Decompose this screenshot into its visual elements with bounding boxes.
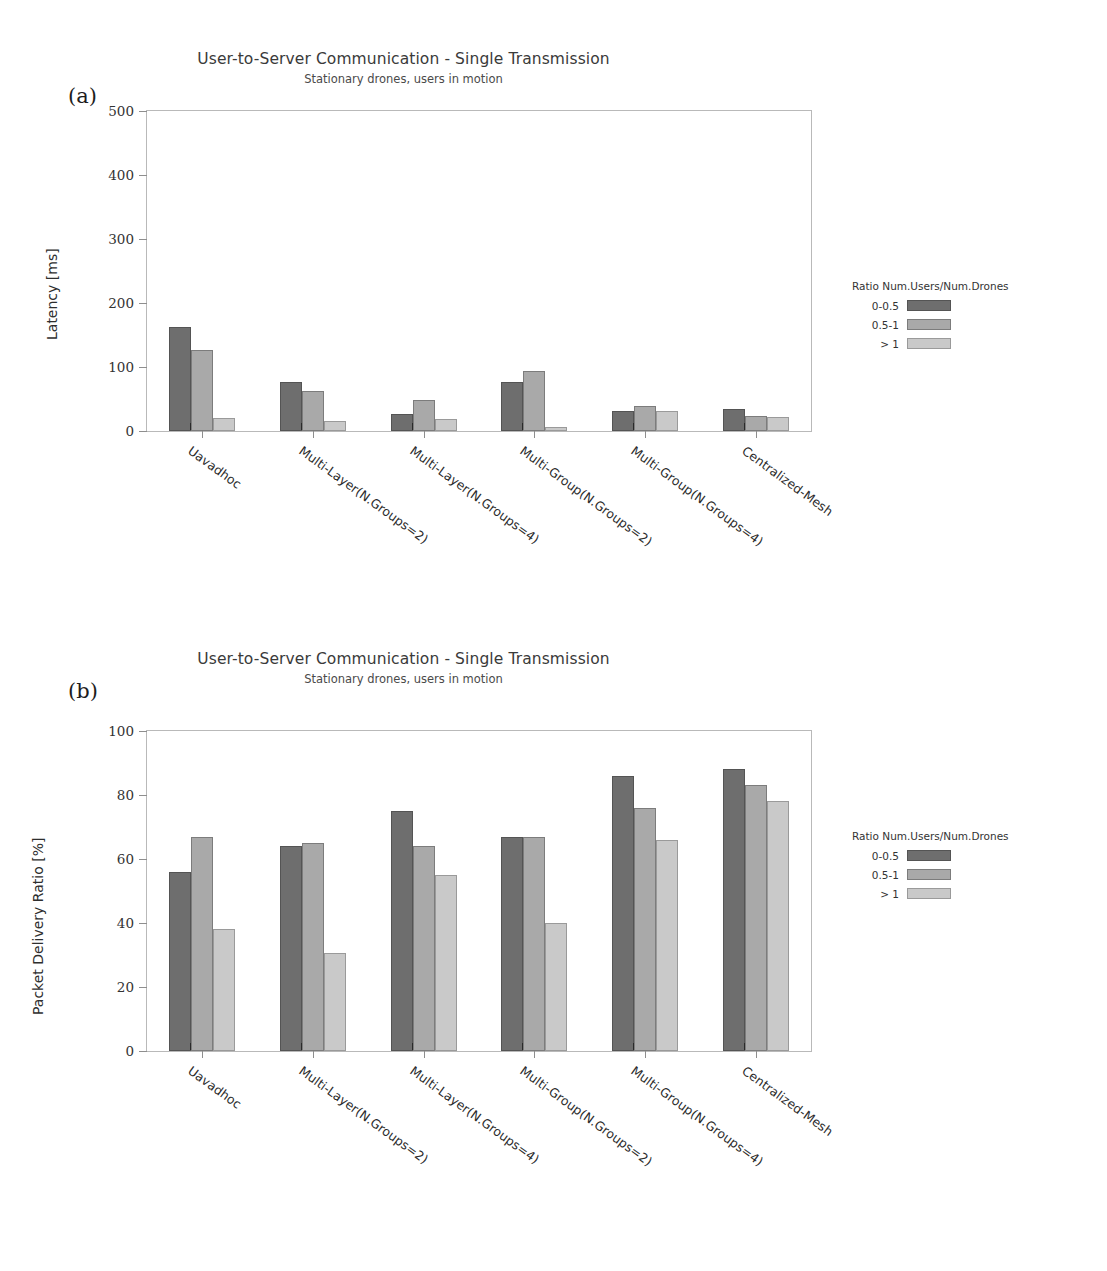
panel-label-a: (a) — [68, 84, 97, 108]
bar[interactable] — [523, 371, 545, 431]
legend-label: 0-0.5 — [852, 300, 899, 312]
bar[interactable] — [391, 414, 413, 431]
figure-a-titles: User-to-Server Communication - Single Tr… — [0, 50, 1107, 86]
legend-title: Ratio Num.Users/Num.Drones — [852, 830, 1009, 842]
bar[interactable] — [545, 923, 567, 1051]
bar-group — [169, 111, 235, 431]
bar[interactable] — [302, 843, 324, 1051]
bar[interactable] — [324, 421, 346, 431]
bar[interactable] — [191, 350, 213, 431]
bar[interactable] — [213, 418, 235, 431]
x-axis-tick — [424, 431, 425, 438]
bar[interactable] — [280, 382, 302, 431]
y-axis-tick-label: 0 — [125, 423, 134, 439]
x-axis-label: Uavadhoc — [186, 443, 245, 492]
bar[interactable] — [612, 411, 634, 431]
y-axis-tick-label: 0 — [125, 1043, 134, 1059]
bar[interactable] — [280, 846, 302, 1051]
bar[interactable] — [435, 875, 457, 1051]
bar[interactable] — [213, 929, 235, 1051]
legend-item-1[interactable]: 0.5-1 — [852, 317, 1009, 332]
bar-group-container — [147, 731, 811, 1051]
bar[interactable] — [501, 837, 523, 1051]
bar-group — [280, 731, 346, 1051]
bar-group — [612, 111, 678, 431]
legend-item-2[interactable]: > 1 — [852, 886, 1009, 901]
x-axis-tick — [756, 431, 757, 438]
y-axis-tick-label: 40 — [117, 915, 134, 931]
y-axis-tick — [139, 859, 147, 860]
y-axis-tick — [139, 303, 147, 304]
y-axis-tick — [139, 111, 147, 112]
x-axis-tick — [534, 1051, 535, 1058]
legend-label: 0.5-1 — [852, 319, 899, 331]
bar[interactable] — [169, 327, 191, 431]
bar[interactable] — [391, 811, 413, 1051]
y-axis-tick — [139, 239, 147, 240]
bar[interactable] — [723, 409, 745, 431]
bar[interactable] — [634, 808, 656, 1051]
y-axis-tick-label: 200 — [108, 295, 134, 311]
legend-swatch-icon — [907, 300, 951, 311]
bar[interactable] — [324, 953, 346, 1051]
legend: Ratio Num.Users/Num.Drones 0-0.5 0.5-1 >… — [852, 830, 1009, 905]
y-axis-tick-label: 20 — [117, 979, 134, 995]
bar-group — [391, 111, 457, 431]
bar[interactable] — [656, 411, 678, 431]
bar[interactable] — [767, 801, 789, 1051]
bar[interactable] — [413, 846, 435, 1051]
y-axis-tick-label: 80 — [117, 787, 134, 803]
legend-label: 0.5-1 — [852, 869, 899, 881]
bar-group — [169, 731, 235, 1051]
legend-item-2[interactable]: > 1 — [852, 336, 1009, 351]
bar[interactable] — [745, 785, 767, 1051]
bar-group-container — [147, 111, 811, 431]
x-axis-tick — [202, 1051, 203, 1058]
legend-item-0[interactable]: 0-0.5 — [852, 848, 1009, 863]
plot-area-wrapper-a: UavadhocMulti-Layer(N.Groups=2)Multi-Lay… — [146, 110, 812, 432]
x-axis-label: Centralized-Mesh — [739, 1063, 836, 1139]
bar-group — [612, 731, 678, 1051]
legend-swatch-icon — [907, 338, 951, 349]
y-axis-tick-label: 500 — [108, 103, 134, 119]
bar[interactable] — [169, 872, 191, 1051]
bar-group — [723, 731, 789, 1051]
figure-b-titles: User-to-Server Communication - Single Tr… — [0, 650, 1107, 686]
legend: Ratio Num.Users/Num.Drones 0-0.5 0.5-1 >… — [852, 280, 1009, 355]
y-axis-tick-label: 300 — [108, 231, 134, 247]
plot-area: UavadhocMulti-Layer(N.Groups=2)Multi-Lay… — [146, 110, 812, 432]
bar[interactable] — [767, 417, 789, 431]
bar[interactable] — [523, 837, 545, 1051]
bar[interactable] — [612, 776, 634, 1051]
y-axis-tick — [139, 367, 147, 368]
plot-area: UavadhocMulti-Layer(N.Groups=2)Multi-Lay… — [146, 730, 812, 1052]
y-axis-tick — [139, 431, 147, 432]
bar[interactable] — [501, 382, 523, 431]
bar[interactable] — [745, 416, 767, 431]
legend-swatch-icon — [907, 319, 951, 330]
bar[interactable] — [191, 837, 213, 1051]
y-axis-tick — [139, 987, 147, 988]
legend-item-0[interactable]: 0-0.5 — [852, 298, 1009, 313]
y-axis-tick — [139, 795, 147, 796]
page-header-left — [150, 2, 970, 11]
chart-title: User-to-Server Communication - Single Tr… — [0, 650, 1107, 668]
bar[interactable] — [302, 391, 324, 431]
bar[interactable] — [656, 840, 678, 1051]
y-axis-title: Latency [ms] — [44, 248, 60, 340]
bar[interactable] — [723, 769, 745, 1051]
bar[interactable] — [413, 400, 435, 431]
x-axis-labels: UavadhocMulti-Layer(N.Groups=2)Multi-Lay… — [147, 431, 811, 601]
y-axis-tick — [139, 923, 147, 924]
bar-group — [501, 111, 567, 431]
bar[interactable] — [634, 406, 656, 431]
x-axis-label: Centralized-Mesh — [739, 443, 836, 519]
bar-group — [391, 731, 457, 1051]
legend-item-1[interactable]: 0.5-1 — [852, 867, 1009, 882]
legend-swatch-icon — [907, 869, 951, 880]
chart-title: User-to-Server Communication - Single Tr… — [0, 50, 1107, 68]
y-axis-tick — [139, 1051, 147, 1052]
chart-subtitle: Stationary drones, users in motion — [0, 72, 1107, 86]
y-axis-tick-label: 400 — [108, 167, 134, 183]
bar[interactable] — [435, 419, 457, 431]
